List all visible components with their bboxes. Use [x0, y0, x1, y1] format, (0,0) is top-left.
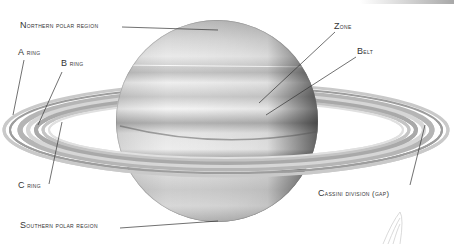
saturn-globe: [116, 20, 318, 222]
corner-decoration: [383, 212, 402, 244]
label-a-ring: A ring: [18, 47, 40, 57]
leader-a-ring: [13, 60, 24, 115]
label-zone: Zone: [334, 21, 352, 31]
saturn-illustration: [0, 0, 454, 244]
label-northern-polar-region: Northern polar region: [20, 20, 98, 30]
label-belt: Belt: [357, 46, 373, 56]
saturn-diagram: Northern polar region A ring B ring Zone…: [0, 0, 454, 244]
label-c-ring: C ring: [18, 180, 41, 190]
label-southern-polar-region: Southern polar region: [20, 220, 98, 230]
label-cassini-division: Cassini division (gap): [318, 188, 389, 198]
label-b-ring: B ring: [61, 58, 83, 68]
leader-southern-polar-region: [120, 221, 218, 228]
top-edge-strip: [360, 0, 454, 4]
